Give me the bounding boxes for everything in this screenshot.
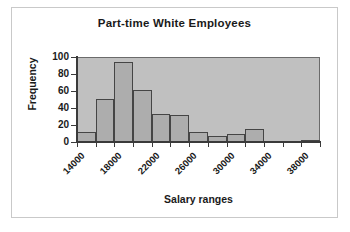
bar [170,115,189,142]
x-axis-tick [301,143,302,147]
x-axis-tick [264,143,265,147]
bar [114,62,133,142]
x-axis-tick [114,143,115,147]
x-axis-tick [245,143,246,147]
x-axis-tick [283,143,284,147]
y-axis-tick-label: 80 [35,69,69,79]
x-axis-line [76,141,321,143]
y-axis-tick [71,74,77,75]
y-axis-tick-label: 20 [35,120,69,130]
y-axis-title: Frequency [26,44,38,124]
y-axis-tick [71,108,77,109]
y-axis-tick-label: 0 [35,137,69,147]
y-axis-tick-label: 60 [35,86,69,96]
x-axis-tick [152,143,153,147]
x-axis-tick [133,143,134,147]
chart-figure: Part-time White Employees 020406080100 1… [0,0,350,232]
x-axis-tick [96,143,97,147]
y-axis-tick [71,57,77,58]
x-axis-tick [77,143,78,147]
bar [96,99,115,142]
x-axis-title: Salary ranges [77,193,320,205]
y-axis-line [76,56,78,143]
y-axis-tick [71,125,77,126]
chart-title: Part-time White Employees [11,17,338,29]
x-axis-tick [189,143,190,147]
x-axis-tick [208,143,209,147]
y-axis-tick-label: 40 [35,103,69,113]
bar [133,90,152,142]
bars-layer [77,57,320,142]
x-axis-tick [320,143,321,147]
y-axis-tick [71,91,77,92]
x-axis-tick [227,143,228,147]
y-axis-tick-label: 100 [35,52,69,62]
x-axis-tick [170,143,171,147]
bar [152,114,171,142]
